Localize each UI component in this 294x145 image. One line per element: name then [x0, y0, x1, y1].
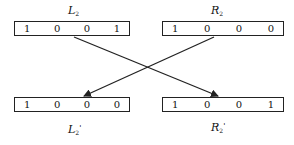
bit: 0 [204, 100, 210, 110]
label-l2-prime: L2' [68, 124, 81, 136]
bit: 0 [84, 100, 90, 110]
bit: 0 [54, 100, 60, 110]
bit: 0 [236, 100, 242, 110]
register-l2-prime: 1 0 0 0 [14, 97, 130, 112]
swap-arrows [0, 0, 294, 145]
bit: 1 [268, 100, 274, 110]
label-l2p-prime: ' [79, 123, 81, 132]
bit: 1 [24, 100, 30, 110]
bit: 0 [114, 100, 120, 110]
label-r2-prime: R2' [211, 122, 225, 134]
arrow-l2-to-r2prime [74, 37, 218, 96]
arrow-r2-to-l2prime [84, 37, 214, 96]
register-r2-prime: 1 0 0 1 [162, 97, 284, 112]
label-r2p-prime: ' [223, 121, 225, 130]
bit: 1 [172, 100, 178, 110]
